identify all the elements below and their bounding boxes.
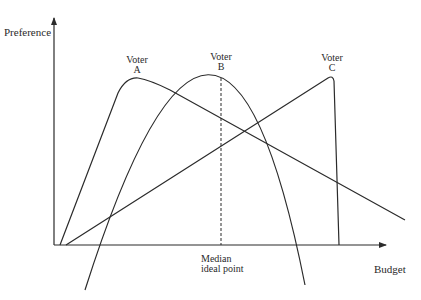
voter-b-preference-curve (85, 75, 305, 290)
voter-b-label-line2: B (210, 62, 231, 72)
x-axis-label: Budget (374, 264, 406, 274)
voter-a-label-line2: A (126, 65, 147, 75)
voter-b-label: Voter B (210, 52, 231, 72)
median-voter-diagram: Preference Voter A Voter B Voter C Media… (0, 0, 421, 300)
voter-c-label-line2: C (321, 63, 342, 73)
y-axis-label: Preference (4, 27, 51, 37)
voter-c-label: Voter C (321, 53, 342, 73)
voter-a-label: Voter A (126, 55, 147, 75)
voter-a-preference-curve (60, 78, 405, 245)
median-ideal-point-label: Median ideal point (201, 254, 244, 274)
median-label-line2: ideal point (201, 264, 244, 274)
